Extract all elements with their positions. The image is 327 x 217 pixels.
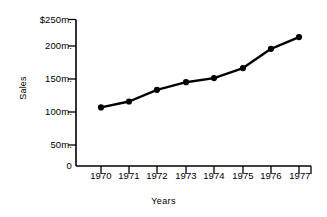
data-point-1973 (183, 79, 189, 85)
data-point-1974 (211, 75, 217, 81)
data-point-1976 (268, 46, 274, 52)
y-axis-ticks (68, 20, 76, 146)
data-point-1971 (126, 98, 132, 104)
x-axis-ticks (101, 166, 311, 174)
data-point-1972 (154, 87, 160, 93)
data-point-1970 (98, 104, 104, 110)
plot-area (0, 0, 327, 217)
sales-line-chart: Sales $250m. 200m. 150m. 100m. 50m. 0 19… (0, 0, 327, 217)
data-point-1975 (240, 65, 246, 71)
data-point-1977 (296, 34, 302, 40)
sales-data-markers (98, 34, 302, 111)
